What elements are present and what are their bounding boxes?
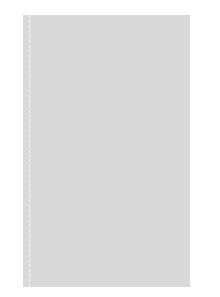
knitting-chart-grid: [23, 15, 190, 287]
center-repeat-marker: [29, 15, 30, 287]
